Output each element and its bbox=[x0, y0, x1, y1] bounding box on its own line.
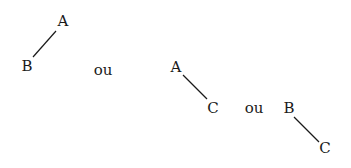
edge-a-b bbox=[33, 31, 56, 57]
separator-ou-2: ou bbox=[245, 101, 264, 116]
edges bbox=[0, 0, 351, 168]
node-a-tree2: A bbox=[171, 60, 182, 75]
separator-ou-1: ou bbox=[94, 63, 113, 78]
edge-b-c bbox=[294, 117, 319, 142]
edge-a-c bbox=[183, 75, 207, 99]
node-c-tree3: C bbox=[319, 141, 330, 156]
node-a-tree1: A bbox=[58, 14, 69, 29]
tree-diagram: A B ou A C ou B C bbox=[0, 0, 351, 168]
node-c-tree2: C bbox=[207, 101, 218, 116]
node-b-tree3: B bbox=[283, 101, 294, 116]
node-b-tree1: B bbox=[21, 59, 32, 74]
